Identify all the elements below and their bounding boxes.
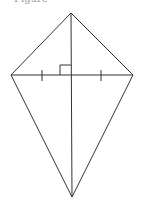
edge-right-bottom <box>72 75 133 197</box>
right-angle-mark <box>60 65 71 75</box>
edge-top-right <box>71 13 133 75</box>
vertical-diagonal <box>71 13 72 197</box>
kite-diagram <box>0 0 142 210</box>
edge-top-left <box>11 13 71 75</box>
edge-left-bottom <box>11 75 72 197</box>
